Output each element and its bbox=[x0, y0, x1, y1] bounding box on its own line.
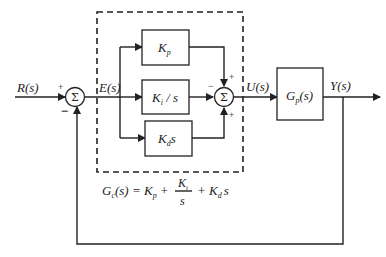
input-label: R(s) bbox=[16, 80, 39, 95]
kp-to-sum bbox=[189, 47, 224, 86]
pid-formula: Gc(s) = Kp+ Ki s + Kds bbox=[102, 176, 229, 208]
control-label: U(s) bbox=[246, 79, 269, 94]
svg-text:+ Kds: + Kds bbox=[197, 183, 229, 200]
right-junction-top-sign: + bbox=[229, 72, 234, 82]
right-summing-junction: Σ bbox=[215, 88, 234, 107]
kd-label: Kds bbox=[157, 131, 176, 148]
left-junction-minus-sign: − bbox=[61, 104, 68, 118]
left-junction-plus-sign: + bbox=[58, 82, 63, 92]
plant-label: Gp(s) bbox=[286, 88, 313, 105]
svg-text:s: s bbox=[180, 194, 185, 208]
right-junction-bottom-sign: + bbox=[229, 110, 234, 120]
pid-block-diagram: R(s) Σ + − E(s) Kp Ki / s Kds Σ − + + U(… bbox=[0, 0, 386, 257]
error-label: E(s) bbox=[98, 80, 121, 95]
svg-text:Ki: Ki bbox=[177, 176, 188, 192]
kd-to-sum bbox=[192, 108, 224, 138]
right-junction-left-sign: − bbox=[208, 81, 213, 91]
ki-label: Ki / s bbox=[151, 90, 178, 107]
svg-text:Σ: Σ bbox=[71, 91, 79, 104]
svg-text:Gc(s) = Kp+: Gc(s) = Kp+ bbox=[102, 183, 168, 200]
left-summing-junction: Σ bbox=[66, 88, 85, 107]
svg-text:Σ: Σ bbox=[220, 91, 228, 104]
output-label: Y(s) bbox=[330, 78, 351, 93]
